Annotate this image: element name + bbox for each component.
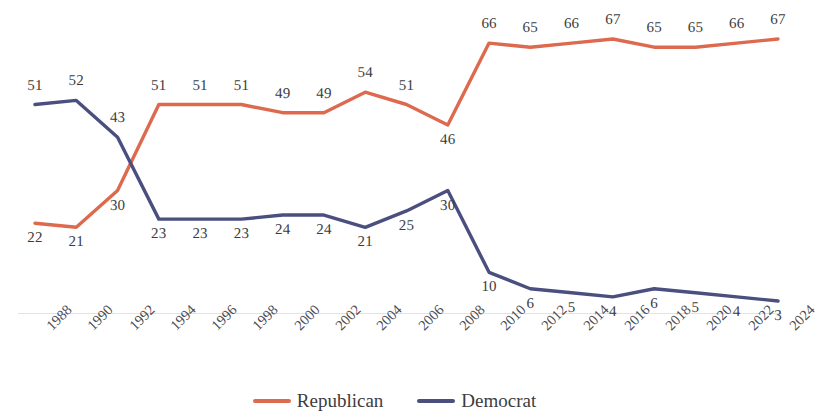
data-label-republican-2014: 66 — [564, 16, 579, 33]
data-label-republican-2018: 65 — [646, 20, 661, 37]
data-label-democrat-2018: 6 — [650, 296, 658, 313]
data-label-republican-1996: 51 — [192, 78, 207, 95]
data-label-democrat-1996: 23 — [192, 226, 207, 243]
data-label-democrat-2004: 21 — [357, 234, 372, 251]
data-label-democrat-2020: 5 — [692, 300, 700, 317]
data-label-republican-2022: 66 — [729, 16, 744, 33]
legend-item-republican[interactable]: Republican — [253, 391, 384, 410]
data-label-democrat-2002: 24 — [316, 222, 331, 239]
data-label-democrat-2008: 30 — [440, 198, 455, 215]
legend-swatch-democrat-icon — [417, 399, 455, 403]
data-label-republican-1988: 22 — [27, 230, 42, 247]
data-label-republican-1992: 30 — [110, 198, 125, 215]
data-label-republican-1990: 21 — [69, 234, 84, 251]
data-label-democrat-1992: 43 — [110, 110, 125, 127]
data-label-democrat-2000: 24 — [275, 222, 290, 239]
series-line-republican — [35, 39, 778, 227]
data-label-republican-2002: 49 — [316, 86, 331, 103]
legend-item-democrat[interactable]: Democrat — [417, 391, 536, 410]
chart-legend: RepublicanDemocrat — [0, 391, 789, 410]
data-label-democrat-1994: 23 — [151, 226, 166, 243]
data-label-republican-1994: 51 — [151, 78, 166, 95]
data-label-republican-2008: 46 — [440, 132, 455, 149]
data-label-republican-1998: 51 — [234, 78, 249, 95]
data-label-republican-2024: 67 — [770, 12, 785, 29]
data-label-republican-2020: 65 — [688, 20, 703, 37]
data-label-republican-2012: 65 — [523, 20, 538, 37]
legend-label: Democrat — [461, 391, 536, 410]
data-label-democrat-2014: 5 — [568, 300, 576, 317]
data-label-republican-2016: 67 — [605, 12, 620, 29]
data-label-democrat-2006: 25 — [399, 218, 414, 235]
data-label-republican-2010: 66 — [481, 16, 496, 33]
data-label-democrat-1988: 51 — [27, 78, 42, 95]
legend-swatch-republican-icon — [253, 399, 291, 403]
data-label-democrat-2010: 10 — [481, 279, 496, 296]
data-label-democrat-1998: 23 — [234, 226, 249, 243]
legend-label: Republican — [297, 391, 384, 410]
data-label-republican-2004: 54 — [357, 65, 372, 82]
data-label-republican-2000: 49 — [275, 86, 290, 103]
data-label-democrat-1990: 52 — [69, 73, 84, 90]
data-label-democrat-2012: 6 — [526, 296, 534, 313]
data-label-republican-2006: 51 — [399, 78, 414, 95]
